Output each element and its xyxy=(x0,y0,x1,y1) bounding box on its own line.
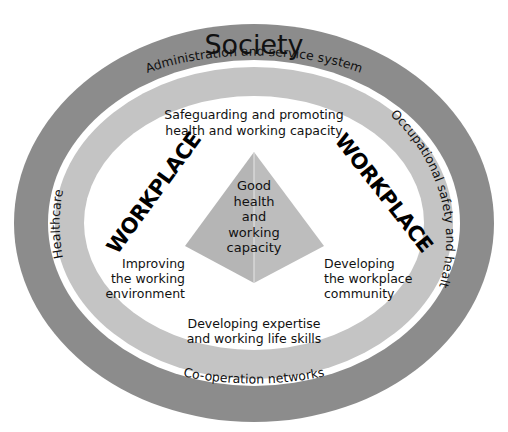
text-line: Developing xyxy=(324,256,434,271)
text-line: health xyxy=(204,194,304,210)
text-line: the workplace xyxy=(324,271,434,286)
text-line: Improving xyxy=(95,256,185,271)
text-line: Developing expertise xyxy=(154,316,354,331)
text-line: and xyxy=(204,209,304,225)
text-line: Safeguarding and promoting xyxy=(154,107,354,123)
text-line: and working life skills xyxy=(154,331,354,346)
text-line: community xyxy=(324,286,434,301)
developing-expertise-text: Developing expertise and working life sk… xyxy=(154,316,354,346)
text-line: the working xyxy=(95,271,185,286)
developing-community-text: Developing the workplace community xyxy=(324,256,434,301)
improving-environment-text: Improving the working environment xyxy=(95,256,185,301)
text-line: Good xyxy=(204,178,304,194)
text-line: environment xyxy=(95,286,185,301)
text-line: working xyxy=(204,225,304,241)
workplace-health-diagram: Society Administration and service syste… xyxy=(0,0,508,432)
text-line: capacity xyxy=(204,240,304,256)
pyramid-label: Good health and working capacity xyxy=(204,178,304,256)
